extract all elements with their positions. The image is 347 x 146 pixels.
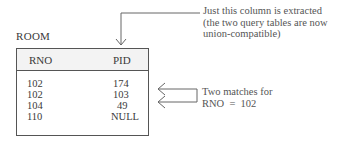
note-line: Just this column is extracted xyxy=(203,5,347,17)
note-line: union-compatible) xyxy=(203,28,347,40)
column-extracted-note: Just this column is extracted (the two q… xyxy=(203,5,347,40)
down-arrow-icon xyxy=(116,13,200,45)
note-line: Two matches for xyxy=(202,86,342,98)
note-line: (the two query tables are now xyxy=(203,17,347,29)
note-line: RNO = 102 xyxy=(202,98,342,110)
double-left-arrow-icon xyxy=(158,83,197,108)
matches-note: Two matches for RNO = 102 xyxy=(202,86,342,109)
